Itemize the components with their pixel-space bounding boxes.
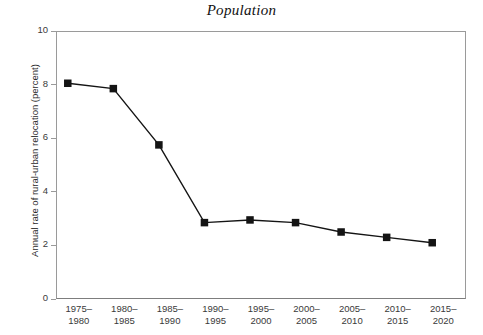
x-tick-label-line: 2020 xyxy=(415,315,471,327)
x-tick-label: 2015–2020 xyxy=(415,303,471,327)
y-tick-label: 4 xyxy=(28,185,48,196)
y-tick-label: 2 xyxy=(28,238,48,249)
y-tick-mark xyxy=(51,191,56,192)
y-tick-mark xyxy=(51,84,56,85)
y-tick-label: 6 xyxy=(28,131,48,142)
plot-area xyxy=(56,31,466,299)
y-tick-mark xyxy=(51,31,56,32)
chart-container: Population Annual rate of rural-urban re… xyxy=(0,0,483,335)
x-tick-label-line: 2015– xyxy=(415,303,471,315)
y-tick-mark xyxy=(51,138,56,139)
y-tick-mark xyxy=(51,245,56,246)
chart-title: Population xyxy=(0,2,483,19)
y-tick-mark xyxy=(51,299,56,300)
y-tick-label: 10 xyxy=(28,24,48,35)
y-tick-label: 0 xyxy=(28,292,48,303)
y-tick-label: 8 xyxy=(28,78,48,89)
